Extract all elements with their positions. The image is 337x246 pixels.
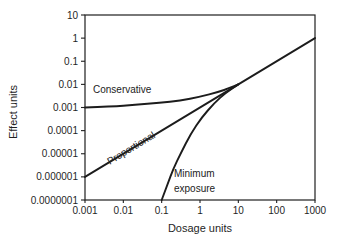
x-axis-tick-label: 0.001 xyxy=(72,205,97,216)
x-axis-tick-label: 1 xyxy=(197,205,203,216)
x-axis-tick-label: 0.01 xyxy=(114,205,134,216)
x-axis-tick-label: 10 xyxy=(233,205,245,216)
x-axis-tick-label: 1000 xyxy=(304,205,327,216)
y-axis-tick-label: 0.01 xyxy=(59,79,79,90)
x-axis-tick-label: 100 xyxy=(268,205,285,216)
chart-svg: 1010.10.010.0010.00010.000010.0000010.00… xyxy=(0,0,337,246)
curve-label-minimum-exposure: Minimum exposure xyxy=(174,166,224,196)
y-axis-tick-label: 0.0000001 xyxy=(31,195,79,206)
x-axis-title: Dosage units xyxy=(168,222,233,234)
y-axis-tick-label: 0.00001 xyxy=(42,148,79,159)
y-axis-tick-label: 0.0001 xyxy=(47,125,78,136)
y-axis-tick-label: 0.000001 xyxy=(36,171,78,182)
y-axis-title: Effect units xyxy=(7,84,19,139)
y-axis-tick-label: 10 xyxy=(67,10,79,21)
y-axis-tick-label: 0.001 xyxy=(53,102,78,113)
y-axis-tick-label: 1 xyxy=(72,33,78,44)
curve-label-conservative: Conservative xyxy=(93,82,151,97)
x-axis-tick-label: 0.1 xyxy=(155,205,169,216)
y-axis-tick-label: 0.1 xyxy=(64,56,78,67)
dose-response-figure: 1010.10.010.0010.00010.000010.0000010.00… xyxy=(0,0,337,246)
